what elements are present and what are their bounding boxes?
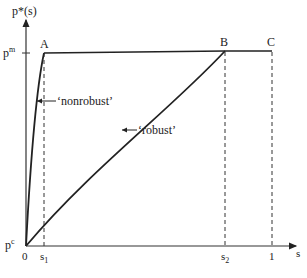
nonrobust-label: ‘nonrobust’ bbox=[57, 94, 113, 108]
x-tick-s1: s1 bbox=[40, 250, 48, 265]
x-tick-s2: s2 bbox=[221, 250, 229, 265]
robust-label: ‘robust’ bbox=[138, 123, 176, 137]
x-tick-0: 0 bbox=[22, 250, 28, 262]
x-tick-1: 1 bbox=[269, 250, 275, 262]
flat-segment-A-C bbox=[44, 51, 272, 53]
nonrobust-curve bbox=[26, 53, 44, 246]
pc-label: pc bbox=[5, 237, 15, 252]
robust-curve bbox=[26, 51, 225, 246]
point-C: C bbox=[267, 35, 275, 49]
pm-label: pm bbox=[3, 45, 16, 60]
chart: p*(s) pm pc 0 s1 s2 1 s A B C ‘nonrobust… bbox=[0, 0, 307, 278]
point-B: B bbox=[220, 35, 228, 49]
y-axis-label: p*(s) bbox=[12, 4, 37, 18]
point-A: A bbox=[40, 37, 49, 51]
x-axis-label: s bbox=[296, 247, 300, 259]
